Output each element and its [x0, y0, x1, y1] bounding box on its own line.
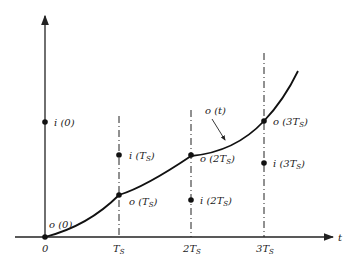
curve-label: o (t) [205, 105, 226, 116]
input-label-1: i (TS) [129, 150, 155, 163]
input-sample-dot-2 [188, 197, 194, 203]
tick-label-0: 0 [42, 243, 49, 254]
input-sample-dot-1 [116, 152, 122, 158]
output-sample-dot-3 [261, 118, 267, 124]
output-label-1: o (TS) [129, 196, 158, 209]
curve-label-pointer [212, 119, 225, 140]
input-label-3: i (3TS) [273, 158, 305, 171]
input-sample-dot-3 [261, 160, 267, 166]
sampling-diagram: t o (t) i (0) i (TS) i (2TS) i (3TS) o (… [0, 0, 351, 263]
input-sample-dot-0 [42, 119, 48, 125]
output-label-2: o (2TS) [200, 153, 235, 166]
input-label-2: i (2TS) [200, 195, 232, 208]
output-sample-dot-2 [188, 152, 194, 158]
input-label-0: i (0) [54, 117, 75, 128]
tick-label-2ts: 2TS [182, 243, 201, 256]
tick-label-ts: TS [113, 243, 125, 256]
output-label-3: o (3TS) [273, 116, 308, 129]
output-sample-dot-1 [116, 192, 122, 198]
x-axis-label: t [338, 232, 343, 243]
output-curve [45, 71, 298, 237]
output-sample-dot-0 [42, 234, 48, 240]
tick-label-3ts: 3TS [256, 243, 274, 256]
output-label-0: o (0) [49, 219, 72, 230]
